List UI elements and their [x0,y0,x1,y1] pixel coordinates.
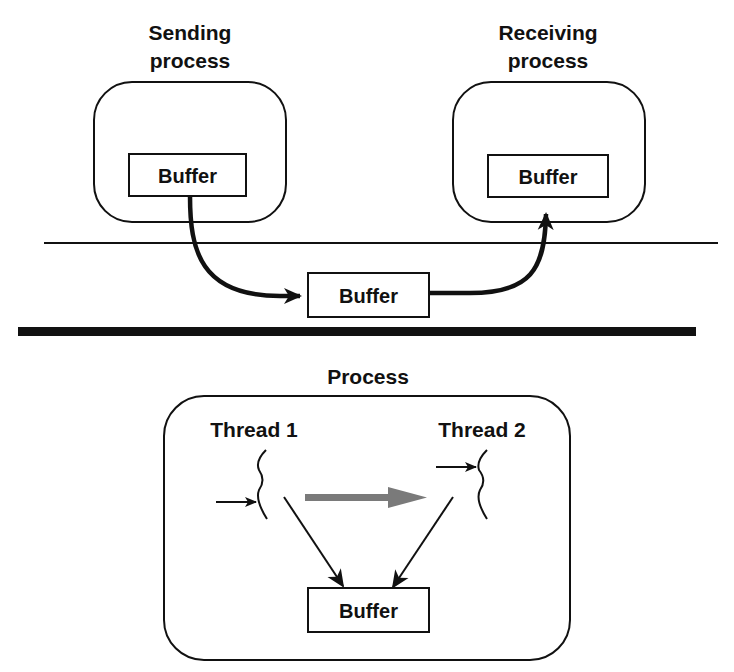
thread2-to-buffer-arrow [393,497,453,587]
receiving-process: Receiving process Buffer [453,21,645,222]
thread1-label: Thread 1 [210,418,298,441]
receiving-process-box [453,82,645,222]
kernel-buffer-label: Buffer [339,285,398,307]
sending-process: Sending process Buffer [94,21,286,222]
kernel-buffer: Buffer [308,273,429,317]
shared-buffer: Buffer [308,588,429,632]
thread2-squiggle-icon [478,450,487,519]
panel-separator [18,327,696,336]
thread-switch-arrow [305,487,427,508]
shared-buffer-label: Buffer [339,600,398,622]
receiving-buffer-label: Buffer [519,166,578,188]
receiving-process-title-line1: Receiving [498,21,597,44]
receive-arrow [429,214,546,293]
process-title: Process [327,365,409,388]
ipc-vs-thread-diagram: Sending process Buffer Receiving process… [0,0,734,672]
thread1-to-buffer-arrow [284,497,343,586]
send-arrow [190,196,300,296]
thread1-squiggle-icon [258,450,267,519]
sending-process-title-line1: Sending [149,21,232,44]
thread2-label: Thread 2 [438,418,526,441]
sending-buffer-label: Buffer [158,165,217,187]
receiving-process-title-line2: process [508,49,589,72]
sending-process-title-line2: process [150,49,231,72]
